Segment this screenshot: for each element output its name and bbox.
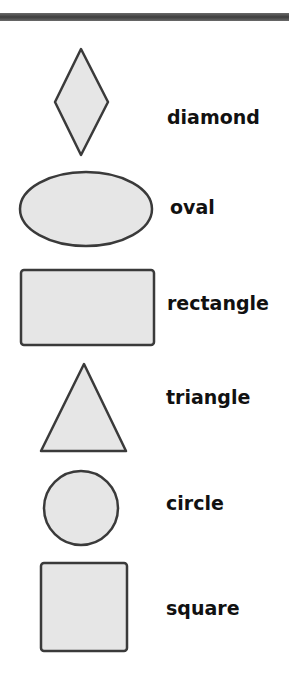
rectangle-shape bbox=[21, 270, 154, 345]
circle-shape bbox=[44, 471, 118, 545]
oval-shape bbox=[20, 172, 152, 246]
diamond-shape bbox=[55, 49, 108, 155]
triangle-shape bbox=[41, 364, 126, 451]
square-shape bbox=[41, 563, 127, 651]
diamond-label: diamond bbox=[167, 106, 260, 128]
oval-label: oval bbox=[170, 196, 215, 218]
rectangle-label: rectangle bbox=[167, 292, 269, 314]
circle-label: circle bbox=[166, 492, 224, 514]
shapes-canvas bbox=[0, 0, 289, 680]
square-label: square bbox=[166, 597, 240, 619]
triangle-label: triangle bbox=[166, 386, 250, 408]
